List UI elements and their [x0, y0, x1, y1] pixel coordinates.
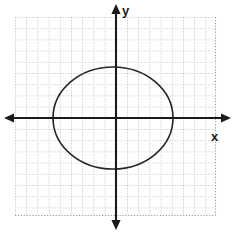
coordinate-plane-figure: y x — [0, 0, 237, 233]
x-axis-label: x — [211, 129, 219, 144]
y-axis-label: y — [122, 3, 130, 18]
graph-canvas: y x — [0, 0, 237, 233]
